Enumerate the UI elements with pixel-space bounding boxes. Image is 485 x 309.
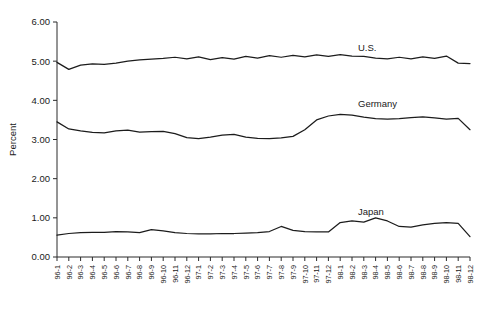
x-axis-tick-label: 97-12	[324, 265, 333, 283]
y-axis-tick-label: 4.00	[32, 95, 51, 106]
x-axis-tick-label: 96-8	[135, 265, 144, 279]
y-axis-tick-label: 5.00	[32, 56, 51, 67]
x-axis-tick-label: 96-9	[147, 265, 156, 279]
x-axis-tick-label: 98-2	[348, 265, 357, 279]
y-axis-tick-label: 0.00	[32, 251, 51, 262]
x-axis-tick-label: 98-12	[466, 265, 475, 283]
x-axis-tick-label: 96-6	[112, 265, 121, 279]
x-axis-tick-label: 98-8	[419, 265, 428, 279]
x-axis-tick-label: 98-4	[371, 265, 380, 279]
x-axis-tick-label: 98-10	[442, 265, 451, 283]
y-axis-tick-label: 2.00	[32, 173, 51, 184]
x-axis-tick-label: 97-11	[312, 265, 321, 283]
x-axis-tick-label: 98-1	[336, 265, 345, 279]
series-line-germany	[57, 114, 470, 138]
y-axis-title: Percent	[7, 123, 18, 156]
x-axis-tick-label: 96-3	[76, 265, 85, 279]
x-axis-tick-label: 97-5	[242, 265, 251, 279]
x-axis-tick-label: 96-10	[159, 265, 168, 283]
x-axis-tick-label: 97-10	[301, 265, 310, 283]
x-axis-tick-label: 96-7	[124, 265, 133, 279]
x-axis-tick-label: 97-7	[265, 265, 274, 279]
x-axis-tick-label: 98-11	[454, 265, 463, 283]
x-axis-tick-label: 98-7	[407, 265, 416, 279]
x-axis-tick-label: 96-1	[53, 265, 62, 279]
x-axis-tick-label: 96-11	[171, 265, 180, 283]
y-axis-tick-label: 6.00	[32, 16, 51, 27]
y-axis-tick-label: 1.00	[32, 212, 51, 223]
series-label-germany: Germany	[358, 98, 397, 109]
x-axis-tick-label: 98-3	[360, 265, 369, 279]
x-axis-tick-label: 97-9	[289, 265, 298, 279]
series-label-japan: Japan	[358, 206, 384, 217]
x-axis-tick-label: 97-6	[253, 265, 262, 279]
x-axis-tick-label: 96-12	[183, 265, 192, 283]
x-axis-tick-label: 97-1	[194, 265, 203, 279]
x-axis-tick-label: 98-6	[395, 265, 404, 279]
x-axis-tick-label: 97-3	[218, 265, 227, 279]
series-line-japan	[57, 218, 470, 237]
x-axis-tick-label: 96-2	[65, 265, 74, 279]
x-axis-tick-label: 97-2	[206, 265, 215, 279]
x-axis-tick-label: 98-9	[430, 265, 439, 279]
series-label-u-s: U.S.	[358, 42, 376, 53]
x-axis-tick-label: 96-5	[100, 265, 109, 279]
y-axis-tick-label: 3.00	[32, 134, 51, 145]
x-axis-tick-label: 98-5	[383, 265, 392, 279]
series-line-u-s	[57, 55, 470, 70]
chart-canvas: 0.001.002.003.004.005.006.00Percent96-19…	[0, 0, 485, 309]
x-axis-tick-label: 97-8	[277, 265, 286, 279]
x-axis-tick-label: 97-4	[230, 265, 239, 279]
line-chart: 0.001.002.003.004.005.006.00Percent96-19…	[0, 0, 485, 309]
x-axis-tick-label: 96-4	[88, 265, 97, 279]
